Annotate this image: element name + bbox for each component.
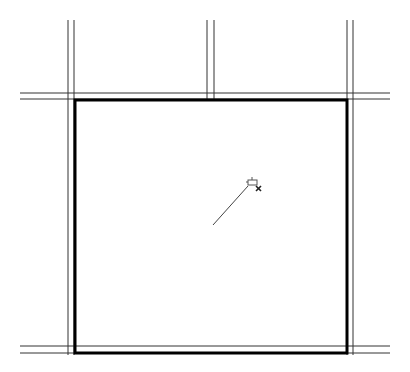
selected-room-outline[interactable] [75,100,347,353]
drawing-canvas[interactable] [0,0,410,372]
drag-line [213,186,248,225]
middle-wall[interactable] [207,20,214,99]
top-wall[interactable] [20,93,390,99]
left-wall[interactable] [68,20,74,355]
pin-move-cursor-icon [246,177,261,191]
